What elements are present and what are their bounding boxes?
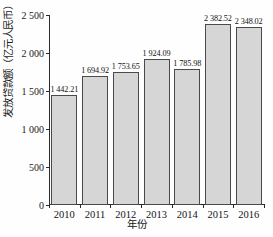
x-axis-title: 年份 (0, 216, 273, 231)
bar (174, 69, 200, 205)
x-tick-mark (110, 204, 111, 208)
y-tick-label: 1 500 (22, 86, 45, 97)
y-tick-mark (46, 91, 50, 92)
x-tick-mark (233, 204, 234, 208)
x-tick-mark (80, 204, 81, 208)
y-tick-mark (46, 15, 50, 16)
bar-value-label: 1 785.98 (173, 59, 201, 68)
x-tick-mark (141, 204, 142, 208)
y-tick-mark (46, 53, 50, 54)
bar (236, 27, 262, 205)
plot-area: 05001 0001 5002 0002 500 201020112012201… (49, 15, 264, 205)
bar-value-label: 1 753.65 (112, 62, 140, 71)
x-tick-mark (264, 204, 265, 208)
bar (205, 24, 231, 205)
y-tick-label: 500 (29, 162, 44, 173)
y-tick-label: 2 000 (22, 48, 45, 59)
y-tick-mark (46, 167, 50, 168)
x-tick-mark (203, 204, 204, 208)
y-tick-label: 2 500 (22, 10, 45, 21)
y-axis-line (49, 15, 50, 205)
bar (51, 95, 77, 205)
y-axis-title: 发放贷款额（亿元人民币） (2, 0, 16, 124)
bar-value-label: 2 382.52 (204, 14, 232, 23)
bar-value-label: 1 442.21 (50, 85, 78, 94)
bar (144, 59, 170, 205)
bar-value-label: 2 348.02 (235, 17, 263, 26)
y-tick-label: 0 (39, 200, 44, 211)
x-tick-mark (172, 204, 173, 208)
bar-value-label: 1 924.09 (143, 49, 171, 58)
bar (113, 72, 139, 205)
x-tick-mark (49, 204, 50, 208)
y-tick-mark (46, 129, 50, 130)
bar-chart: 发放贷款额（亿元人民币） 05001 0001 5002 0002 500 20… (0, 0, 273, 237)
bar (82, 76, 108, 205)
bar-value-label: 1 694.92 (81, 66, 109, 75)
y-tick-label: 1 000 (22, 124, 45, 135)
